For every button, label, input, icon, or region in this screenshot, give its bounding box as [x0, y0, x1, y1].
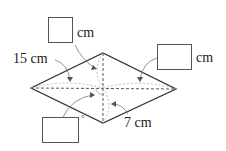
arrowhead — [137, 77, 143, 82]
arrowhead — [90, 92, 95, 98]
bottom-half-arc — [103, 88, 109, 123]
right-unit-label: cm — [196, 51, 213, 65]
center-angle-arc — [96, 88, 103, 95]
arrowhead — [111, 101, 116, 107]
degree-symbol: ° — [81, 114, 85, 123]
left-length-label: 15 cm — [13, 52, 48, 66]
arrowhead — [67, 77, 73, 82]
left-half-arc — [31, 83, 103, 88]
top-answer-box[interactable] — [48, 17, 73, 43]
bottom-length-label: 7 cm — [124, 116, 152, 130]
top-unit-label: cm — [77, 26, 94, 40]
rhombus-diagram — [0, 0, 226, 151]
angle-answer-box[interactable] — [42, 117, 79, 143]
top-half-arc — [97, 53, 103, 88]
right-answer-box[interactable] — [157, 44, 192, 70]
